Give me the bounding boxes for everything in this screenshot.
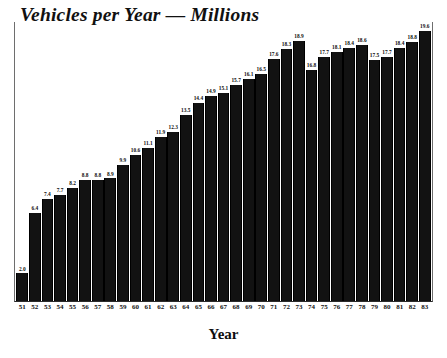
bar [167,132,179,301]
bar [180,115,192,301]
x-axis-tick-label: 65 [192,304,205,311]
bar-value-label: 17.7 [382,50,391,55]
bar-column: 14.4 [193,22,205,301]
bar-column: 15.7 [230,22,242,301]
bar [16,273,28,301]
bar [67,188,79,301]
bar [243,79,255,301]
bar [155,137,167,301]
x-axis-tick-label: 70 [255,304,268,311]
bar-value-label: 9.9 [120,158,127,163]
bar-value-label: 8.8 [82,173,89,178]
bar-column: 14.9 [205,22,217,301]
bar [381,57,393,301]
bar-column: 9.9 [117,22,129,301]
bar-column: 18.3 [281,22,293,301]
bar-column: 19.6 [419,22,431,301]
bar-value-label: 17.5 [370,53,379,58]
bar [130,155,142,301]
bar [79,180,91,301]
x-axis-tick-label: 67 [217,304,230,311]
bar [193,103,205,301]
bar-value-label: 2.0 [19,267,26,272]
x-axis-tick-label: 74 [305,304,318,311]
x-axis-tick-label: 68 [230,304,243,311]
bar [142,148,154,301]
x-axis-title: Year [0,326,447,343]
bar-value-label: 15.7 [231,78,240,83]
x-axis-tick-label: 77 [343,304,356,311]
x-axis-tick-label: 72 [280,304,293,311]
x-axis-tick-label: 63 [167,304,180,311]
bar-column: 2.0 [16,22,28,301]
bar-column: 17.7 [318,22,330,301]
bar-value-label: 13.5 [181,108,190,113]
bar [293,41,305,301]
chart-page: Vehicles per Year — Millions 2.06.47.47.… [0,0,447,358]
bar-value-label: 8.8 [94,173,101,178]
x-axis-tick-label: 82 [406,304,419,311]
x-axis-tick-label: 58 [104,304,117,311]
bar [356,45,368,301]
x-axis-tick-label: 66 [205,304,218,311]
bar-value-label: 7.4 [44,192,51,197]
bar [205,96,217,301]
bar-column: 18.4 [394,22,406,301]
x-axis-tick-label: 73 [293,304,306,311]
x-axis-tick-label: 54 [54,304,67,311]
bar-column: 7.7 [54,22,66,301]
bar [306,70,318,301]
bar-value-label: 10.6 [131,148,140,153]
bar [369,60,381,301]
bar [331,52,343,301]
bar-value-label: 16.8 [307,63,316,68]
bar-column: 18.6 [356,22,368,301]
x-axis-tick-label: 55 [66,304,79,311]
bar-column: 17.5 [369,22,381,301]
x-axis-tick-label: 51 [16,304,29,311]
bar-column: 6.4 [29,22,41,301]
bar [318,57,330,301]
bar [394,48,406,301]
bar-value-label: 7.7 [57,188,64,193]
bar-column: 11.9 [155,22,167,301]
bar-value-label: 6.4 [31,206,38,211]
bar-series: 2.06.47.47.78.28.88.88.99.910.611.111.91… [16,22,431,301]
bar [92,180,104,301]
bar-value-label: 18.3 [282,42,291,47]
bar-column: 17.6 [268,22,280,301]
bar-value-label: 14.4 [194,96,203,101]
bar-column: 18.8 [406,22,418,301]
bar [54,195,66,301]
bar-column: 15.1 [218,22,230,301]
x-axis-tick-label: 78 [356,304,369,311]
bar-value-label: 17.7 [319,50,328,55]
bar-column: 11.1 [142,22,154,301]
bar [268,59,280,301]
bar-value-label: 14.9 [206,89,215,94]
bar [343,48,355,301]
bar-value-label: 8.2 [69,181,76,186]
bar [255,74,267,301]
x-axis-tick-label: 76 [330,304,343,311]
bar-column: 18.9 [293,22,305,301]
bar-column: 18.4 [343,22,355,301]
bar-column: 16.5 [255,22,267,301]
bar-value-label: 18.9 [294,34,303,39]
bar-value-label: 11.9 [156,130,165,135]
bar-value-label: 11.1 [144,141,153,146]
bar [419,31,431,301]
bar [29,213,41,301]
bar-value-label: 19.6 [420,24,429,29]
x-axis-tick-label: 83 [419,304,432,311]
bar [104,178,116,301]
x-axis-tick-label: 71 [268,304,281,311]
bar-column: 8.2 [67,22,79,301]
bar-column: 16.1 [243,22,255,301]
bar-value-label: 12.3 [169,125,178,130]
bar-column: 16.8 [306,22,318,301]
x-axis-tick-label: 81 [393,304,406,311]
x-axis-tick-label: 56 [79,304,92,311]
bar-column: 8.8 [79,22,91,301]
bar [281,49,293,301]
